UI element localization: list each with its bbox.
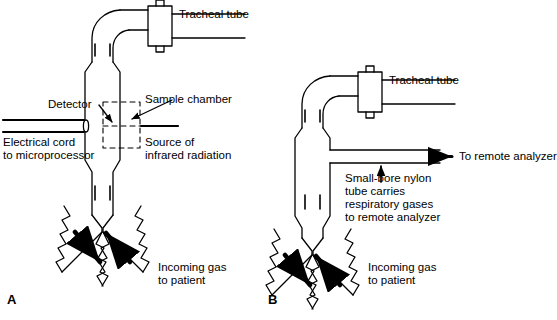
tracheal-connector-a [148,6,172,46]
elbow-inner-b [323,96,339,128]
connector-flange-bot-a [156,46,164,52]
label-to-remote-analyzer-b: To remote analyzer [459,150,557,163]
corrugation-left-outer-b [266,229,280,295]
corrugation-right-outer-a [135,206,149,272]
label-ir-source-a: Source of infrared radiation [145,136,231,162]
body-right-a [113,62,120,215]
connector-flange-bot-b [366,112,374,118]
flow-arrow-inspired-a [106,233,130,262]
label-tracheal-tube-b: Tracheal tube [389,74,459,87]
connector-flange-top-a [156,0,164,6]
label-electrical-cord-a: Electrical cord to microprocessor [3,136,94,162]
detector-leader-a [99,105,112,122]
panel-letter-a: A [7,292,16,307]
flow-arrow-inspired-b [316,256,340,285]
label-nylon-tube-b: Small-bore nylon tube carries respirator… [345,172,440,224]
elbow-inner-a [113,30,129,62]
corrugation-right-outer-b [345,229,359,295]
flow-arrow-expired-a [75,232,100,262]
body-right-upper-b [323,128,330,150]
label-detector-a: Detector [48,98,91,111]
elbow-outer-b [302,76,330,128]
panel-letter-b: B [268,292,277,307]
elbow-outer-a [92,10,120,62]
body-left-b [295,128,302,238]
tracheal-connector-b [358,72,382,112]
label-tracheal-tube-a: Tracheal tube [179,8,249,21]
corrugation-left-outer-a [56,206,70,272]
label-incoming-gas-a: Incoming gas to patient [158,261,226,287]
connector-flange-top-b [366,66,374,72]
body-right-lower-b [323,163,330,238]
label-sample-chamber-a: Sample chamber [145,93,232,106]
sample-chamber-box-a [103,102,140,148]
detector-element-a [83,120,88,132]
flow-arrow-expired-b [285,255,310,285]
label-incoming-gas-b: Incoming gas to patient [368,261,436,287]
